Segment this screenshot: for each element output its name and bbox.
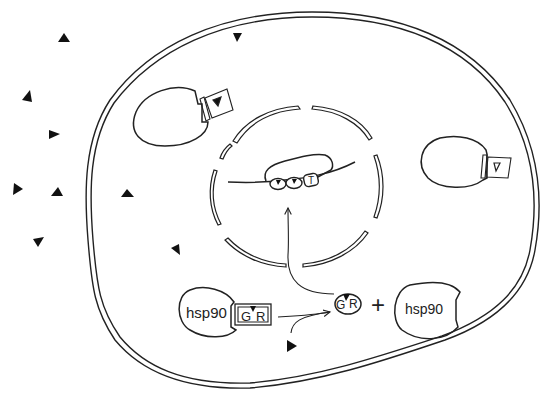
cell-membrane [86, 12, 539, 388]
hormone-triangle [22, 90, 32, 102]
hsp90-free: hsp90 [395, 282, 460, 338]
gr-free-g: G [336, 298, 345, 312]
hsp90-gr-complex: hsp90 G R [179, 288, 271, 337]
gr-bound: G R [235, 304, 271, 325]
bound-receptor-1 [270, 179, 286, 190]
hormone-triangle [121, 189, 134, 197]
transcription-complex: T [265, 154, 333, 189]
receptor-right [421, 137, 511, 188]
receptor-right-ligand-slot [481, 155, 511, 178]
dna-box-label: T [308, 175, 314, 186]
receptor-left-ligand-slot [200, 89, 233, 121]
hormone-triangle [49, 130, 60, 139]
plus-sign: + [371, 291, 385, 318]
diagram-canvas: T hsp90 G R G R + hsp90 [0, 0, 557, 399]
arrow-hormone-to-gr [291, 312, 330, 333]
hormone-triangle [58, 33, 70, 42]
dna-box-t: T [303, 173, 319, 188]
receptor-left [134, 88, 233, 146]
hormone-triangle [51, 187, 63, 196]
hormone-triangle [287, 340, 297, 352]
gr-free-r: R [349, 297, 358, 311]
hsp90-free-label: hsp90 [405, 301, 443, 317]
hormone-triangle [33, 237, 44, 247]
hsp90-bound-label: hsp90 [186, 304, 227, 321]
gr-activated: G R [335, 294, 361, 314]
gr-bound-r: R [256, 309, 265, 324]
bound-receptor-2 [286, 178, 302, 189]
gr-bound-g: G [241, 309, 251, 324]
hormone-triangle [13, 183, 23, 195]
hormone-triangle [233, 33, 242, 42]
arrow-gr-to-nucleus [288, 208, 334, 294]
hormone-triangle [171, 244, 180, 255]
